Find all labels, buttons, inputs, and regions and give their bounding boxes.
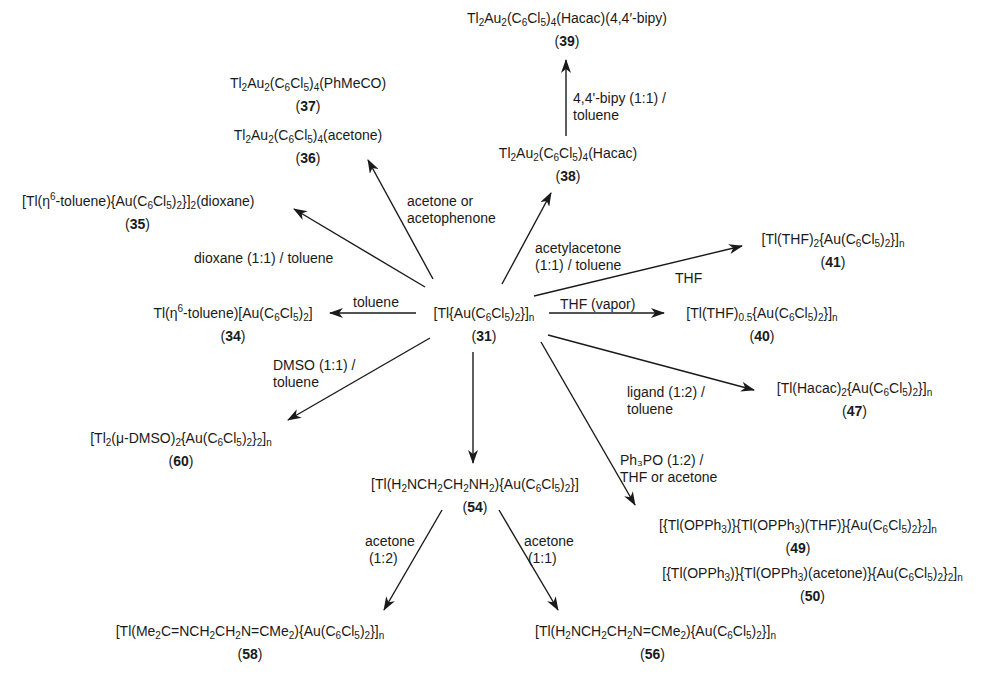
compound-formula: Tl2Au2(C6Cl5)4(Hacac) (480, 145, 656, 162)
condition-thf-vapor: THF (vapor) (560, 296, 635, 313)
compound-36: Tl2Au2(C6Cl5)4(acetone) (36) (218, 127, 398, 167)
condition-acetone-1-1: acetone (1:1) (524, 533, 574, 567)
compound-40: [Tl(THF)0.5{Au(C6Cl5)2}]n (40) (672, 305, 852, 345)
compound-formula: [Tl{Au(C6Cl5)2}]n (420, 305, 548, 322)
compound-number: (60) (76, 453, 286, 470)
compound-formula: [Tl(THF)2{Au(C6Cl5)2}]n (748, 231, 918, 248)
compound-formula: Tl2Au2(C6Cl5)4(Hacac)(4,4′-bipy) (426, 10, 708, 27)
compound-49: [{Tl(OPPh3)}{Tl(OPPh3)(THF)}{Au(C6Cl5)2}… (638, 517, 958, 557)
condition-ligand: ligand (1:2) / toluene (627, 384, 705, 418)
condition-acetylacetone: acetylacetone (1:1) / toluene (535, 240, 621, 274)
compound-formula: Tl(η6-toluene)[Au(C6Cl5)2] (138, 305, 328, 322)
compound-formula: Tl2Au2(C6Cl5)4(acetone) (218, 127, 398, 144)
condition-toluene: toluene (353, 294, 399, 311)
compound-39: Tl2Au2(C6Cl5)4(Hacac)(4,4′-bipy) (39) (426, 10, 708, 50)
compound-34: Tl(η6-toluene)[Au(C6Cl5)2] (34) (138, 305, 328, 345)
arrow-31-to-35 (294, 209, 425, 287)
compound-38: Tl2Au2(C6Cl5)4(Hacac) (38) (480, 145, 656, 185)
compound-54: [Tl(H2NCH2CH2NH2){Au(C6Cl5)2}] (54) (350, 476, 600, 516)
condition-thf: THF (675, 270, 702, 287)
compound-number: (50) (640, 588, 985, 605)
compound-formula: [Tl(Me2C=NCH2CH2N=CMe2){Au(C6Cl5)2}]n (100, 623, 400, 640)
compound-number: (54) (350, 499, 600, 516)
compound-56: [Tl(H2NCH2CH2N=CMe2){Au(C6Cl5)2}]n (56) (535, 623, 770, 663)
compound-number: (38) (480, 168, 656, 185)
compound-37: Tl2Au2(C6Cl5)4(PhMeCO) (37) (218, 75, 398, 115)
compound-number: (34) (138, 328, 328, 345)
compound-58: [Tl(Me2C=NCH2CH2N=CMe2){Au(C6Cl5)2}]n (5… (100, 623, 400, 663)
compound-formula: Tl2Au2(C6Cl5)4(PhMeCO) (218, 75, 398, 92)
compound-number: (37) (218, 98, 398, 115)
compound-number: (31) (420, 328, 548, 345)
compound-50: [{Tl(OPPh3)}{Tl(OPPh3)(acetone)}{Au(C6Cl… (640, 565, 985, 605)
compound-formula: [{Tl(OPPh3)}{Tl(OPPh3)(THF)}{Au(C6Cl5)2}… (638, 517, 958, 534)
condition-ph3po: Ph₃PO (1:2) / THF or acetone (620, 452, 717, 486)
compound-number: (35) (22, 216, 292, 233)
condition-dioxane: dioxane (1:1) / toluene (194, 250, 333, 267)
compound-number: (41) (748, 254, 918, 271)
condition-acetone-or-acetophenone: acetone or acetophenone (407, 193, 496, 227)
compound-31-center: [Tl{Au(C6Cl5)2}]n (31) (420, 305, 548, 345)
compound-number: (49) (638, 540, 958, 557)
compound-formula: [Tl2(μ-DMSO)2{Au(C6Cl5)2}2]n (76, 430, 286, 447)
compound-number: (36) (218, 150, 398, 167)
compound-formula: [Tl(H2NCH2CH2NH2){Au(C6Cl5)2}] (350, 476, 600, 493)
compound-number: (39) (426, 33, 708, 50)
compound-number: (40) (672, 328, 852, 345)
compound-formula: [Tl(THF)0.5{Au(C6Cl5)2}]n (672, 305, 852, 322)
compound-formula: [{Tl(OPPh3)}{Tl(OPPh3)(acetone)}{Au(C6Cl… (640, 565, 985, 582)
compound-35: [Tl(η6-toluene){Au(C6Cl5)2}]2(dioxane) (… (22, 193, 292, 233)
condition-bipy: 4,4'-bipy (1:1) / toluene (573, 90, 666, 124)
condition-acetone-1-2: acetone (1:2) (365, 533, 415, 567)
compound-formula: [Tl(η6-toluene){Au(C6Cl5)2}]2(dioxane) (22, 193, 292, 210)
compound-number: (58) (100, 646, 400, 663)
compound-41: [Tl(THF)2{Au(C6Cl5)2}]n (41) (748, 231, 918, 271)
compound-number: (56) (535, 646, 770, 663)
compound-60: [Tl2(μ-DMSO)2{Au(C6Cl5)2}2]n (60) (76, 430, 286, 470)
reaction-scheme: Tl2Au2(C6Cl5)4(Hacac)(4,4′-bipy) (39) Tl… (0, 0, 1005, 682)
compound-47: [Tl(Hacac)2{Au(C6Cl5)2}]n (47) (762, 380, 947, 420)
compound-formula: [Tl(H2NCH2CH2N=CMe2){Au(C6Cl5)2}]n (535, 623, 770, 640)
compound-formula: [Tl(Hacac)2{Au(C6Cl5)2}]n (762, 380, 947, 397)
compound-number: (47) (762, 403, 947, 420)
condition-dmso: DMSO (1:1) / toluene (273, 357, 355, 391)
